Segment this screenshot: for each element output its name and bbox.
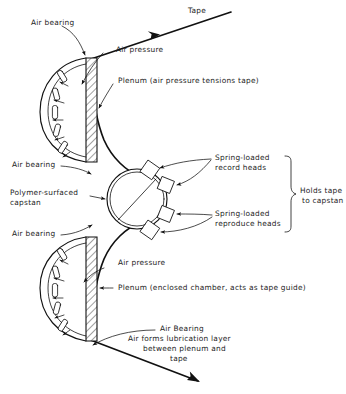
upper-plenum: [40, 53, 103, 162]
label-capstan-line2: capstan: [10, 198, 41, 208]
label-air-bearing-bottom-l3: tape: [170, 354, 188, 364]
label-holds-tape-line1: Holds tape: [300, 186, 342, 196]
air-bearing-mid-upper-leader: [61, 166, 91, 174]
label-tape: Tape: [188, 6, 206, 16]
capstan-leader: [90, 196, 105, 199]
heads-brace: [285, 156, 296, 232]
air-bearing-top-leader: [62, 26, 85, 55]
label-air-bearing-bottom-l1: Air forms lubrication layer: [128, 334, 231, 344]
label-air-bearing-bottom-title: Air Bearing: [160, 324, 204, 334]
label-capstan-line1: Polymer-surfaced: [10, 188, 78, 198]
capstan: [107, 169, 167, 229]
label-air-pressure-bottom: Air pressure: [118, 258, 165, 268]
label-reproduce-heads-line1: Spring-loaded: [215, 209, 270, 219]
label-air-bearing-top: Air bearing: [31, 18, 74, 28]
label-record-heads-line1: Spring-loaded: [215, 153, 270, 163]
label-holds-tape-line2: to capstan: [302, 196, 344, 206]
label-record-heads-line2: record heads: [215, 163, 266, 173]
label-air-bearing-mid-upper: Air bearing: [12, 160, 55, 170]
diagram-canvas: Tape Air bearing Air pressure Plenum (ai…: [0, 0, 346, 394]
plenum-top-leader: [99, 84, 113, 108]
label-air-bearing-mid-lower: Air bearing: [12, 229, 55, 239]
label-air-bearing-bottom-l2: between plenum and: [143, 344, 226, 354]
label-reproduce-heads-line2: reproduce heads: [215, 219, 281, 229]
label-plenum-top: Plenum (air pressure tensions tape): [118, 76, 259, 86]
lower-plenum: [40, 237, 104, 341]
air-bearing-mid-lower-leader: [61, 225, 92, 235]
label-plenum-bottom: Plenum (enclosed chamber, acts as tape g…: [118, 283, 306, 293]
label-air-pressure-top: Air pressure: [116, 45, 163, 55]
lower-plenum-wall: [86, 237, 97, 341]
